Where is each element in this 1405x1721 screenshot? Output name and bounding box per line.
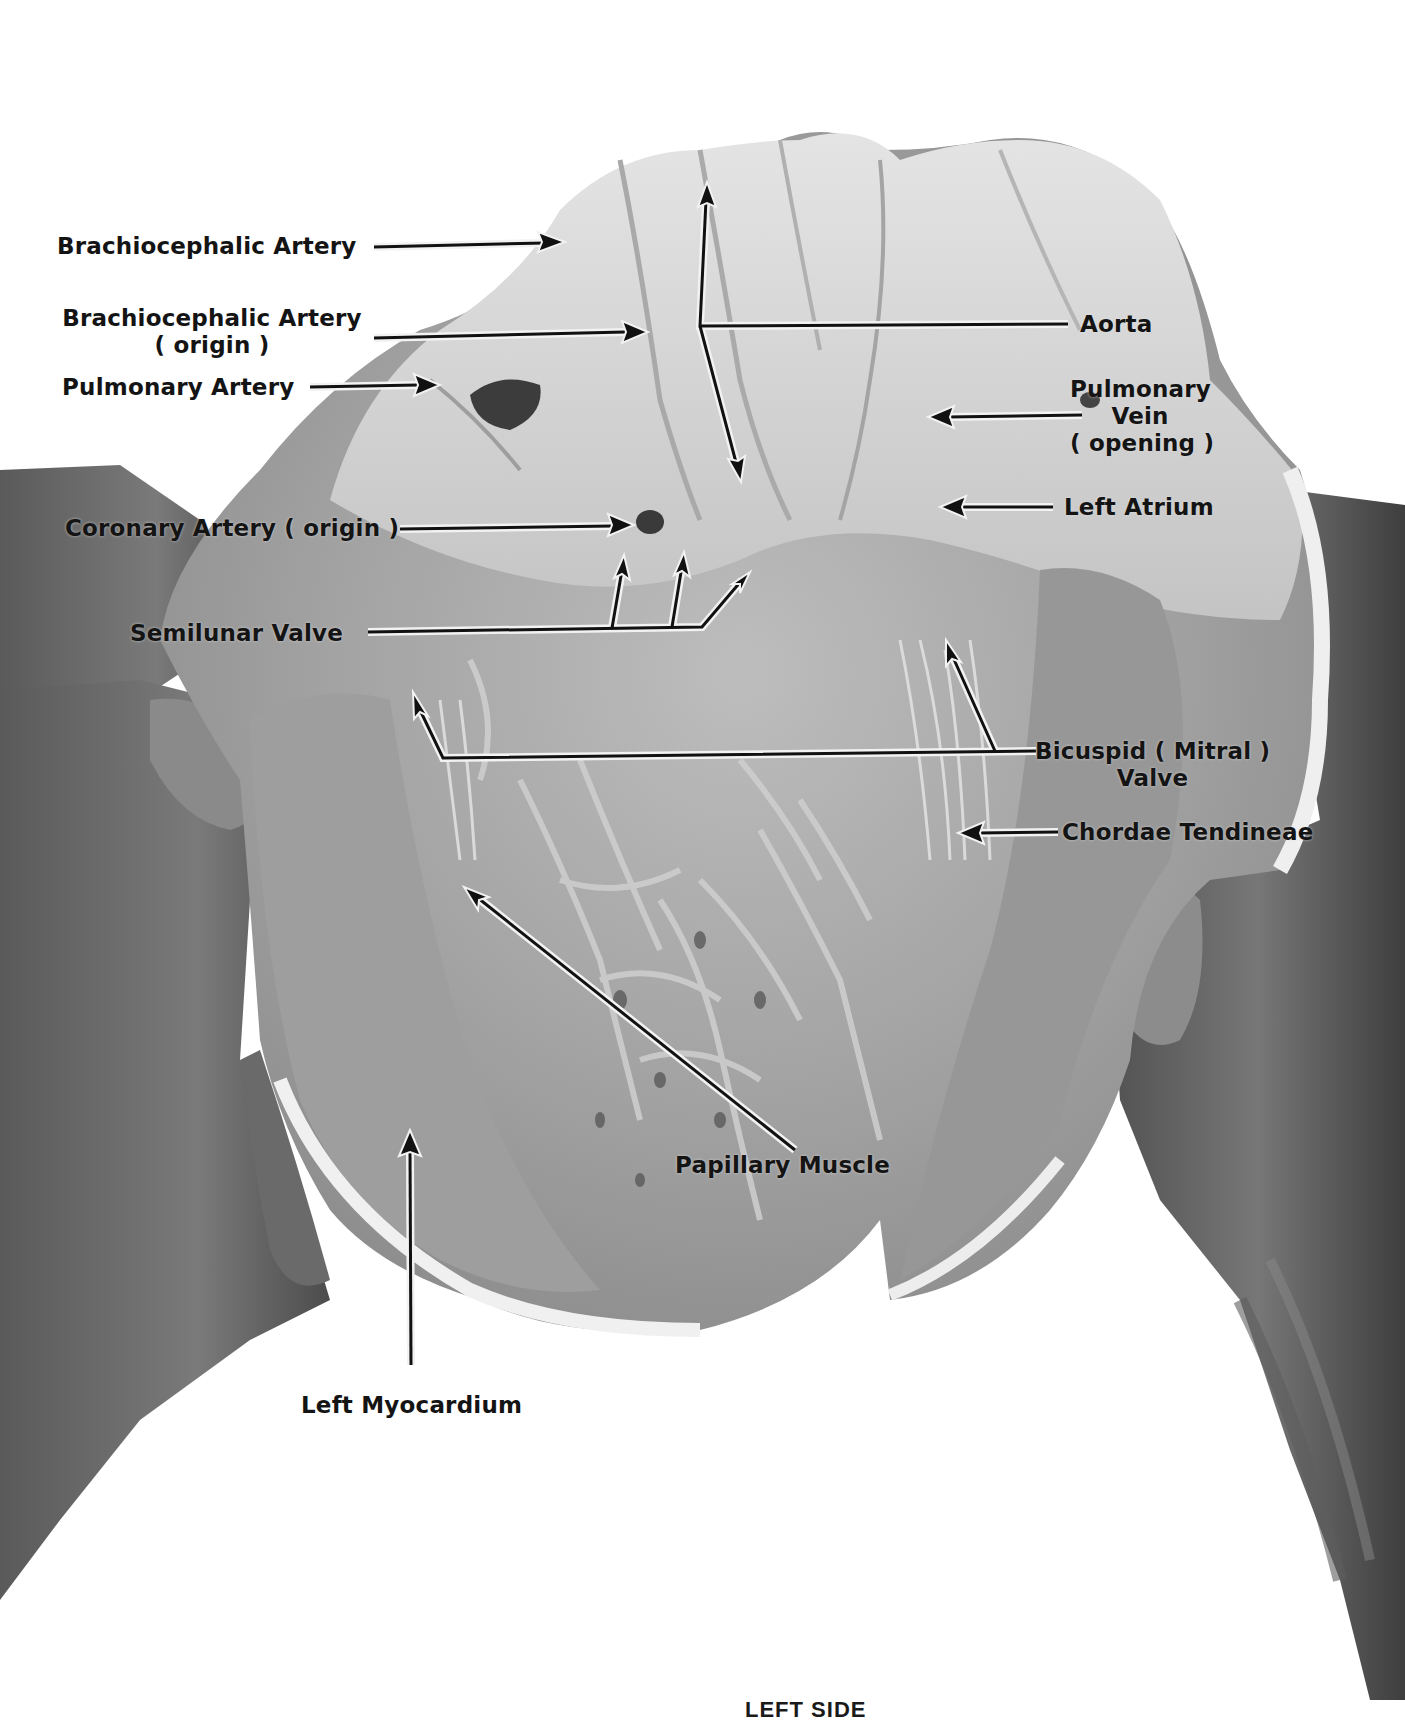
label-brachiocephalic-origin-line2: ( origin ): [57, 332, 367, 359]
figure-caption-partial: LEFT SIDE: [745, 1697, 866, 1721]
label-pulmonary-vein-line3: ( opening ): [1070, 430, 1210, 457]
label-semilunar-valve: Semilunar Valve: [130, 620, 343, 647]
label-chordae-tendineae: Chordae Tendineae: [1062, 819, 1313, 846]
label-left-myocardium: Left Myocardium: [301, 1392, 522, 1419]
label-pulmonary-artery: Pulmonary Artery: [62, 374, 294, 401]
label-pulmonary-vein-line1: Pulmonary: [1070, 376, 1210, 403]
label-bicuspid-line1: Bicuspid ( Mitral ): [1035, 738, 1270, 765]
label-bicuspid-line2: Valve: [1035, 765, 1270, 792]
label-bicuspid-mitral-valve: Bicuspid ( Mitral ) Valve: [1035, 738, 1270, 792]
label-papillary-muscle: Papillary Muscle: [675, 1152, 890, 1179]
label-coronary-artery-origin: Coronary Artery ( origin ): [65, 515, 399, 542]
label-brachiocephalic-artery-origin: Brachiocephalic Artery ( origin ): [57, 305, 367, 359]
label-pulmonary-vein: Pulmonary Vein ( opening ): [1070, 376, 1210, 457]
label-left-atrium: Left Atrium: [1064, 494, 1214, 521]
label-brachiocephalic-origin-line1: Brachiocephalic Artery: [57, 305, 367, 332]
label-brachiocephalic-artery: Brachiocephalic Artery: [57, 233, 357, 260]
label-pulmonary-vein-line2: Vein: [1070, 403, 1210, 430]
label-aorta: Aorta: [1080, 311, 1152, 338]
